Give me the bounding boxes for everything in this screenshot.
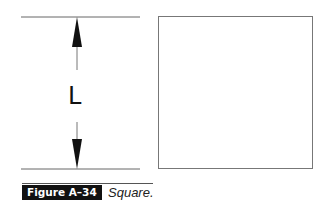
arrow-up-icon xyxy=(72,17,82,47)
dimension-label: L xyxy=(68,84,81,108)
arrow-down-icon xyxy=(72,139,82,169)
figure-caption: Square. xyxy=(108,185,154,200)
square-shape xyxy=(159,17,313,169)
figure-number-tag: Figure A–34 xyxy=(22,185,102,200)
caption-rule xyxy=(22,183,153,184)
square-figure-drawing xyxy=(0,0,330,202)
